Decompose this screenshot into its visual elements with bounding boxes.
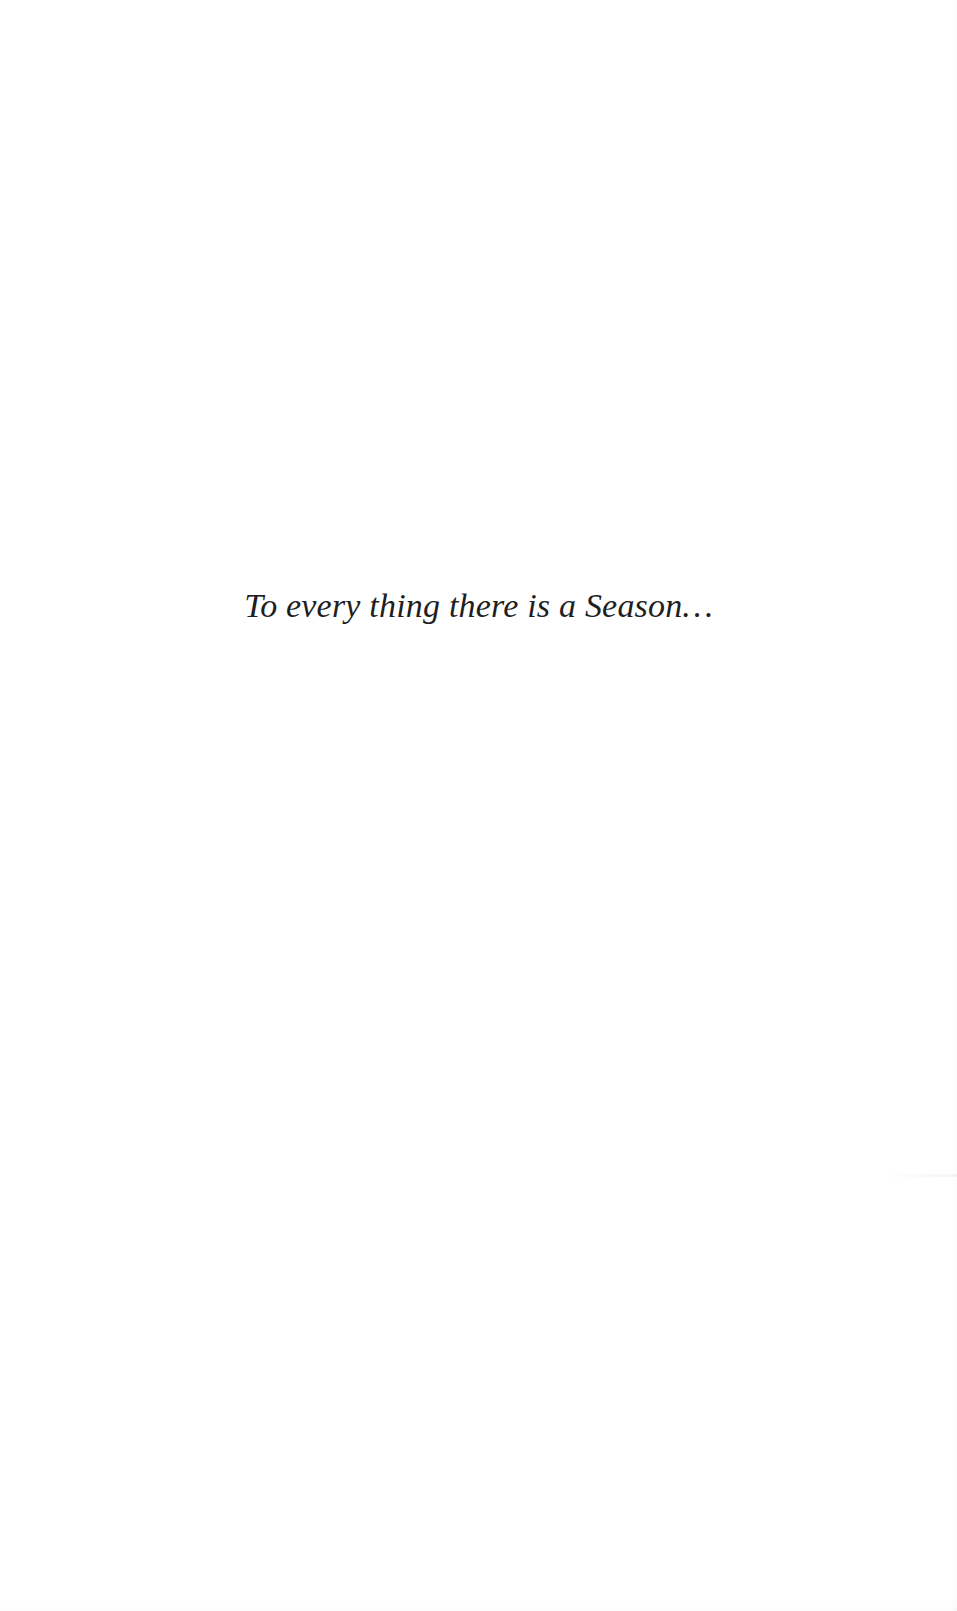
- epigraph-text: To every thing there is a Season…: [0, 586, 957, 626]
- book-page: To every thing there is a Season…: [0, 0, 957, 1611]
- scan-artifact: [880, 1174, 957, 1177]
